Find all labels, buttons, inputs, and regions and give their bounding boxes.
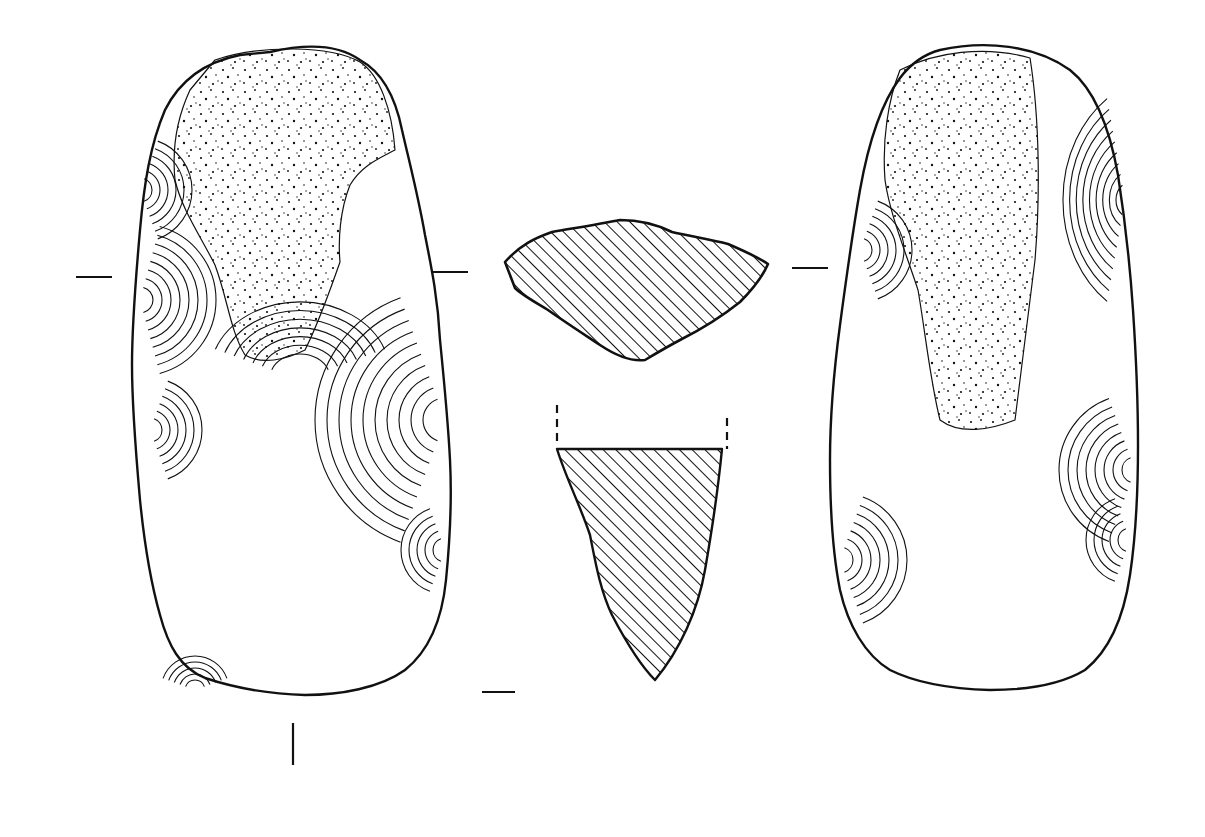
- section-cut-marks: [557, 405, 727, 449]
- technical-drawing: [0, 0, 1205, 837]
- long-section-hatched: [557, 449, 722, 680]
- cross-section-hatched: [505, 220, 768, 360]
- axe-face-ventral: [830, 45, 1138, 690]
- longitudinal-section: [557, 405, 727, 680]
- flint-axe-illustration: [0, 0, 1205, 837]
- axe-face-dorsal: [132, 47, 451, 695]
- ripple-line: [186, 680, 205, 687]
